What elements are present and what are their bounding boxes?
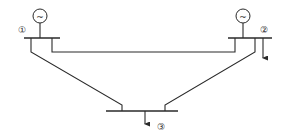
bus-1-label: ① xyxy=(18,25,26,35)
line-1-3 xyxy=(31,38,122,111)
bus-2-label: ② xyxy=(260,25,268,35)
bus-1: ~ ① xyxy=(18,9,60,38)
bus-3: ③ xyxy=(106,111,178,132)
line-1-2 xyxy=(52,38,235,52)
bus-3-label: ③ xyxy=(157,122,165,132)
line-2-3 xyxy=(165,38,255,111)
generator-2-symbol: ~ xyxy=(239,12,247,22)
power-system-diagram: ~ ① ~ ② ③ xyxy=(0,0,284,138)
generator-1-symbol: ~ xyxy=(36,12,44,22)
